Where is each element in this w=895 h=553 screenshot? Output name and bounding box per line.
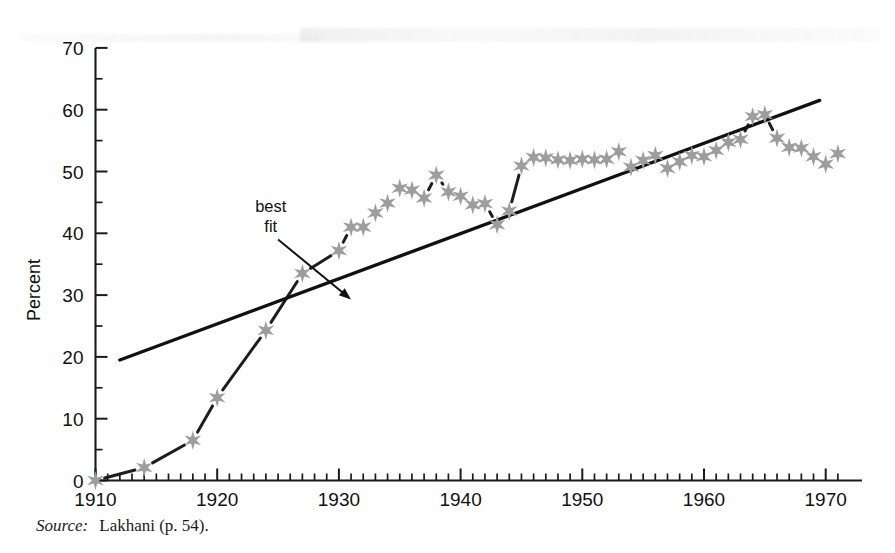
y-axis-tick-labels: 010203040506070 — [62, 38, 83, 492]
x-axis-ticks — [96, 469, 838, 481]
series-segment — [442, 183, 443, 184]
series-segment — [198, 406, 213, 432]
data-point-marker — [391, 179, 408, 198]
data-point-marker — [793, 138, 810, 157]
data-point-marker — [404, 180, 421, 199]
data-point-marker — [452, 187, 469, 206]
data-point-marker — [185, 431, 202, 450]
data-point-marker — [331, 241, 348, 260]
x-tick-label: 1940 — [439, 489, 481, 510]
source-label: Source: — [36, 516, 88, 535]
data-point-marker — [550, 150, 567, 169]
series-segment — [152, 445, 184, 463]
data-point-marker — [586, 150, 603, 169]
data-point-marker — [464, 195, 481, 214]
data-point-marker — [537, 148, 554, 167]
x-tick-label: 1910 — [74, 489, 116, 510]
x-tick-label: 1920 — [196, 489, 238, 510]
annotation-label-line1: best — [255, 197, 287, 215]
x-tick-label: 1960 — [683, 489, 725, 510]
y-tick-label: 70 — [62, 38, 83, 59]
data-point-marker — [611, 142, 628, 161]
data-point-marker — [416, 188, 433, 207]
data-point-marker — [355, 218, 372, 237]
y-tick-label: 10 — [62, 409, 83, 430]
data-point-marker — [598, 150, 615, 169]
x-tick-label: 1930 — [318, 489, 360, 510]
data-point-marker — [136, 458, 153, 477]
observed-series-markers — [87, 105, 846, 490]
y-axis-group: 010203040506070 Percent — [24, 38, 108, 492]
series-segment — [429, 184, 432, 190]
data-point-marker — [343, 218, 360, 237]
data-point-marker — [659, 159, 676, 178]
source-note: Source:Lakhani (p. 54). — [36, 516, 209, 536]
x-axis-tick-labels: 1910192019301940195019601970 — [74, 489, 846, 510]
data-point-marker — [513, 156, 530, 175]
y-axis-ticks — [96, 48, 108, 481]
y-axis-title: Percent — [24, 259, 44, 321]
source-value: Lakhani (p. 54). — [99, 516, 209, 535]
data-point-marker — [477, 194, 494, 213]
data-point-marker — [769, 129, 786, 148]
y-tick-label: 20 — [62, 347, 83, 368]
data-point-marker — [562, 151, 579, 170]
data-point-marker — [805, 147, 822, 166]
figure-container: 010203040506070 Percent 1910192019301940… — [0, 0, 895, 553]
series-segment — [223, 338, 261, 390]
y-tick-label: 50 — [62, 162, 83, 183]
series-segment — [490, 212, 493, 217]
series-segment — [512, 175, 519, 202]
series-segment — [769, 123, 772, 130]
data-point-marker — [525, 148, 542, 167]
data-point-marker — [574, 150, 591, 169]
y-tick-label: 60 — [62, 100, 83, 121]
annotation-label-line2: fit — [264, 217, 277, 235]
x-tick-label: 1970 — [805, 489, 847, 510]
y-tick-label: 40 — [62, 223, 83, 244]
series-segment — [310, 256, 330, 269]
series-segment — [343, 236, 346, 243]
percent-over-time-line-chart: 010203040506070 Percent 1910192019301940… — [0, 0, 895, 553]
best-fit-line — [120, 100, 820, 360]
data-point-marker — [781, 138, 798, 157]
y-tick-label: 30 — [62, 285, 83, 306]
x-tick-label: 1950 — [561, 489, 603, 510]
data-point-marker — [696, 147, 713, 166]
best-fit-line-path — [120, 100, 820, 360]
x-axis-group: 1910192019301940195019601970 — [74, 469, 862, 510]
data-point-marker — [708, 141, 725, 160]
